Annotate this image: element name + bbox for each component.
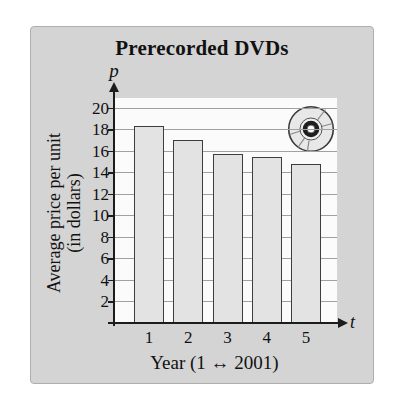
y-axis-arrowhead-icon — [109, 82, 119, 92]
bar-year-4 — [252, 157, 282, 324]
bar-year-3 — [213, 154, 243, 324]
y-axis-tick-labels: 2468101214161820 — [59, 98, 109, 324]
x-axis-symbol: t — [350, 312, 355, 333]
y-tick-label: 14 — [92, 163, 109, 183]
y-axis-symbol: p — [103, 60, 125, 82]
y-tick-label: 16 — [92, 142, 109, 162]
bar-year-5 — [291, 164, 321, 324]
y-tick-label: 12 — [92, 185, 109, 205]
x-axis-arrowhead-icon — [338, 318, 348, 328]
bar-year-1 — [134, 126, 164, 324]
x-tick-label: 5 — [302, 328, 311, 348]
figure-card: Prerecorded DVDs Average price per unit … — [30, 26, 374, 384]
x-axis-line — [108, 322, 339, 324]
x-tick-label: 1 — [145, 328, 154, 348]
x-tick-label: 3 — [223, 328, 232, 348]
bar-year-2 — [173, 140, 203, 324]
gridline — [114, 108, 337, 109]
x-tick-label: 4 — [263, 328, 272, 348]
y-axis-line — [113, 91, 115, 326]
y-tick-label: 20 — [92, 99, 109, 119]
chart-title: Prerecorded DVDs — [31, 36, 373, 61]
x-axis-title: Year (1 ↔ 2001) — [103, 352, 326, 374]
plot-area — [114, 98, 337, 324]
y-tick-label: 10 — [92, 206, 109, 226]
x-tick-label: 2 — [184, 328, 193, 348]
x-axis-tick-labels: 12345 — [114, 328, 337, 350]
y-tick-label: 18 — [92, 120, 109, 140]
